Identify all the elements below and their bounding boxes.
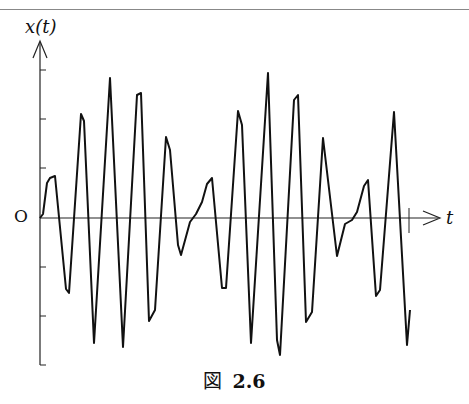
waveform-line: [40, 73, 410, 355]
x-axis-label: t: [446, 207, 454, 228]
figure-caption: 図2.6: [0, 366, 469, 393]
y-axis-label: x(t): [25, 16, 56, 37]
caption-number: 2.6: [232, 370, 265, 392]
signal-plot: x(t) O t: [0, 0, 469, 404]
caption-prefix: 図: [203, 370, 222, 392]
origin-label: O: [14, 206, 28, 226]
